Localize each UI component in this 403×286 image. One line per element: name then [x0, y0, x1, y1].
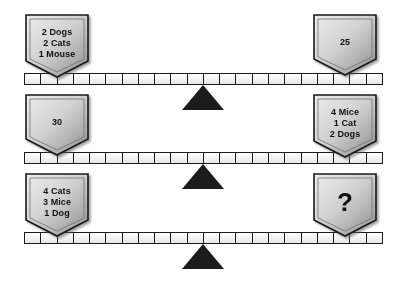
beam-segment [106, 233, 122, 243]
beam-segment [285, 153, 301, 163]
beam-segment [171, 153, 187, 163]
beam-segment [204, 233, 220, 243]
beam-segment [269, 233, 285, 243]
beam-segment [139, 153, 155, 163]
fulcrum-triangle-icon-3 [182, 244, 224, 269]
beam-segment [90, 233, 106, 243]
beam-segment [155, 153, 171, 163]
beam-segment [155, 233, 171, 243]
beam-segment [188, 153, 204, 163]
beam-segment [236, 74, 252, 84]
pentagon-plaque-icon [313, 14, 377, 76]
beam-segment [123, 233, 139, 243]
fulcrum-triangle-icon-1 [182, 85, 224, 110]
beam-segment [171, 233, 187, 243]
beam-segment [123, 74, 139, 84]
beam-segment [139, 74, 155, 84]
beam-segment [236, 153, 252, 163]
fulcrum-triangle-icon-2 [182, 164, 224, 189]
beam-segment [204, 74, 220, 84]
beam-segment [90, 153, 106, 163]
beam-segment [253, 233, 269, 243]
plaque-scale-3-right-unknown[interactable]: ? [313, 173, 377, 237]
beam-segment [155, 74, 171, 84]
plaque-scale-1-left[interactable]: 2 Dogs 2 Cats 1 Mouse [25, 14, 89, 78]
beam-segment [188, 233, 204, 243]
beam-segment [220, 233, 236, 243]
beam-segment [285, 74, 301, 84]
beam-segment [253, 153, 269, 163]
beam-segment [285, 233, 301, 243]
beam-segment [269, 74, 285, 84]
beam-segment [188, 74, 204, 84]
plaque-scale-2-right[interactable]: 4 Mice 1 Cat 2 Dogs [313, 94, 377, 158]
plaque-scale-3-left[interactable]: 4 Cats 3 Mice 1 Dog [25, 173, 89, 237]
beam-segment [90, 74, 106, 84]
beam-segment [139, 233, 155, 243]
plaque-scale-1-right[interactable]: 25 [313, 14, 377, 76]
beam-segment [269, 153, 285, 163]
beam-segment [236, 233, 252, 243]
beam-segment [171, 74, 187, 84]
beam-segment [253, 74, 269, 84]
plaque-scale-2-left[interactable]: 30 [25, 94, 89, 156]
pentagon-plaque-icon [313, 94, 377, 158]
pentagon-plaque-icon [25, 94, 89, 156]
beam-segment [204, 153, 220, 163]
pentagon-plaque-icon [25, 173, 89, 237]
beam-segment [106, 153, 122, 163]
pentagon-plaque-icon [25, 14, 89, 78]
beam-segment [123, 153, 139, 163]
balance-puzzle-canvas: 2 Dogs 2 Cats 1 Mouse 25 [0, 0, 403, 286]
pentagon-plaque-icon [313, 173, 377, 237]
beam-segment [220, 74, 236, 84]
beam-segment [106, 74, 122, 84]
beam-segment [220, 153, 236, 163]
